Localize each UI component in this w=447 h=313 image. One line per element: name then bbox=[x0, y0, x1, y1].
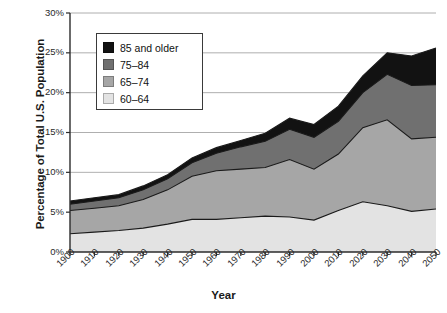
y-axis-tick-label: 25% bbox=[30, 46, 64, 57]
chart-legend: 85 and older 75–84 65–74 60–64 bbox=[96, 33, 203, 110]
legend-swatch-65-74 bbox=[103, 76, 114, 87]
legend-label: 65–74 bbox=[120, 76, 149, 88]
legend-swatch-75-84 bbox=[103, 59, 114, 70]
chart-container: Percentage of Total U.S. Population 0%5%… bbox=[0, 0, 447, 313]
legend-item: 65–74 bbox=[103, 73, 202, 90]
y-axis-tick-label: 10% bbox=[30, 166, 64, 177]
y-axis-tick-label: 5% bbox=[30, 206, 64, 217]
legend-label: 75–84 bbox=[120, 59, 149, 71]
legend-label: 85 and older bbox=[120, 42, 178, 54]
y-axis-tick-label: 20% bbox=[30, 86, 64, 97]
y-axis-tick-label: 15% bbox=[30, 126, 64, 137]
legend-item: 85 and older bbox=[103, 39, 202, 56]
y-axis-tick-label: 30% bbox=[30, 7, 64, 18]
x-axis-title: Year bbox=[0, 289, 447, 301]
legend-swatch-85-and-older bbox=[103, 42, 114, 53]
legend-label: 60–64 bbox=[120, 93, 149, 105]
legend-swatch-60-64 bbox=[103, 93, 114, 104]
legend-item: 60–64 bbox=[103, 90, 202, 107]
legend-item: 75–84 bbox=[103, 56, 202, 73]
